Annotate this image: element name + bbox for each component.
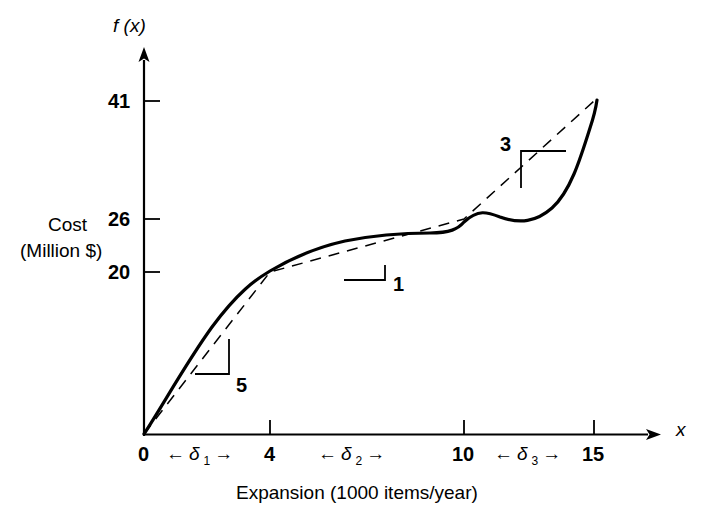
slope-label-1: 1 (393, 274, 404, 294)
y-tick-label-20: 20 (108, 262, 130, 282)
arrow-right-icon: → (538, 443, 561, 464)
y-axis-title-line1: Cost (48, 215, 87, 234)
interval-marker-delta2: ←δ2→ (318, 444, 385, 467)
delta-symbol-3: δ (513, 443, 532, 464)
y-axis-symbol-label: f (x) (113, 16, 146, 35)
x-tick-label-4: 4 (264, 444, 275, 464)
arrow-left-icon: ← (318, 443, 337, 464)
y-axis-title-line2: (Million $) (20, 241, 102, 260)
x-axis-title: Expansion (1000 items/year) (236, 483, 478, 502)
x-tick-label-0: 0 (138, 444, 149, 464)
y-tick-label-41: 41 (108, 91, 130, 111)
arrow-right-icon: → (210, 443, 233, 464)
interval-marker-delta1: ←δ1→ (166, 444, 233, 467)
slope-label-3: 3 (500, 134, 511, 154)
slope-triangle-3 (521, 151, 566, 188)
delta-symbol-1: δ (185, 443, 204, 464)
x-axis-symbol-label: x (676, 420, 686, 439)
x-tick-label-10: 10 (452, 444, 474, 464)
arrow-right-icon: → (362, 443, 385, 464)
interval-marker-delta3: ←δ3→ (494, 444, 561, 467)
delta-symbol-2: δ (337, 443, 356, 464)
chart-canvas: f (x) x Cost (Million $) 41 26 20 0 4 10… (0, 0, 716, 522)
arrow-left-icon: ← (166, 443, 185, 464)
slope-label-5: 5 (236, 375, 247, 395)
y-tick-label-26: 26 (108, 209, 130, 229)
arrow-left-icon: ← (494, 443, 513, 464)
y-axis-arrowhead (139, 47, 150, 62)
slope-triangle-1 (344, 265, 385, 280)
x-axis-arrowhead (646, 429, 661, 440)
x-tick-label-15: 15 (582, 444, 604, 464)
